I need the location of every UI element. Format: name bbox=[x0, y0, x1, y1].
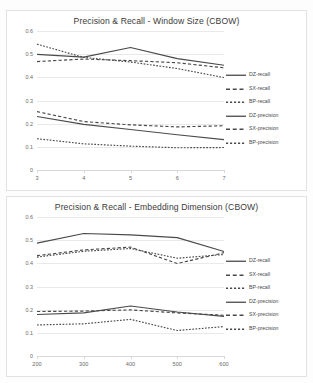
y-axis-tick-label: 0.6 bbox=[26, 214, 34, 220]
y-axis-tick-label: 0.3 bbox=[26, 98, 34, 104]
y-axis-tick-label: 0.1 bbox=[26, 144, 34, 150]
x-axis-tick bbox=[131, 356, 132, 359]
y-axis-tick-label: 0 bbox=[30, 353, 33, 359]
legend-line-swatch-icon bbox=[226, 113, 246, 119]
legend-item-sx-precision[interactable]: SX-precision bbox=[226, 312, 302, 318]
x-axis-tick-label: 6 bbox=[176, 175, 179, 181]
series-layer bbox=[37, 217, 224, 356]
chart-legend: DZ-recallSX-recallBP-recallDZ-precisionS… bbox=[226, 258, 302, 332]
legend-item-dz-precision[interactable]: DZ-precision bbox=[226, 113, 302, 119]
chart-page: Precision & Recall - Window Size (CBOW) … bbox=[0, 0, 313, 383]
x-axis-tick bbox=[177, 356, 178, 359]
legend-item-label: DZ-precision bbox=[249, 299, 278, 304]
legend-item-label: SX-recall bbox=[249, 86, 270, 91]
legend-item-label: BP-recall bbox=[249, 286, 270, 291]
legend-item-bp-recall[interactable]: BP-recall bbox=[226, 99, 302, 105]
legend-item-label: BP-precision bbox=[249, 326, 278, 331]
legend-item-label: DZ-precision bbox=[249, 113, 278, 118]
y-axis-tick-label: 0.5 bbox=[26, 51, 34, 57]
legend-line-swatch-icon bbox=[226, 72, 246, 78]
series-line-sx-recall bbox=[37, 59, 224, 68]
y-axis-tick-label: 0.5 bbox=[26, 237, 34, 243]
chart-legend: DZ-recallSX-recallBP-recallDZ-precisionS… bbox=[226, 72, 302, 146]
legend-line-swatch-icon bbox=[226, 326, 246, 332]
series-line-dz-precision bbox=[37, 116, 224, 139]
series-line-sx-precision bbox=[37, 112, 224, 127]
x-axis-tick bbox=[131, 170, 132, 173]
legend-item-bp-recall[interactable]: BP-recall bbox=[226, 285, 302, 291]
series-line-bp-precision bbox=[37, 139, 224, 148]
x-axis-tick bbox=[37, 356, 38, 359]
legend-item-dz-recall[interactable]: DZ-recall bbox=[226, 72, 302, 78]
legend-item-label: SX-recall bbox=[249, 272, 270, 277]
x-axis-tick-label: 400 bbox=[126, 361, 135, 367]
chart-title: Precision & Recall - Window Size (CBOW) bbox=[7, 16, 306, 26]
series-line-sx-precision bbox=[37, 310, 224, 315]
legend-item-bp-precision[interactable]: BP-precision bbox=[226, 140, 302, 146]
legend-line-swatch-icon bbox=[226, 140, 246, 146]
y-axis-tick-label: 0 bbox=[30, 167, 33, 173]
x-axis-tick-label: 200 bbox=[32, 361, 41, 367]
legend-line-swatch-icon bbox=[226, 258, 246, 264]
x-axis-tick-label: 500 bbox=[173, 361, 182, 367]
chart-title: Precision & Recall - Embedding Dimension… bbox=[7, 202, 306, 212]
series-line-bp-recall bbox=[37, 249, 224, 259]
legend-item-sx-precision[interactable]: SX-precision bbox=[226, 126, 302, 132]
legend-line-swatch-icon bbox=[226, 126, 246, 132]
y-axis-tick-label: 0.4 bbox=[26, 74, 34, 80]
x-axis-tick-label: 4 bbox=[82, 175, 85, 181]
legend-line-swatch-icon bbox=[226, 99, 246, 105]
x-axis-tick-label: 600 bbox=[219, 361, 228, 367]
chart-panel-window-size: Precision & Recall - Window Size (CBOW) … bbox=[6, 10, 307, 191]
x-axis-tick bbox=[224, 356, 225, 359]
series-line-sx-recall bbox=[37, 247, 224, 263]
legend-line-swatch-icon bbox=[226, 299, 246, 305]
legend-line-swatch-icon bbox=[226, 285, 246, 291]
legend-item-sx-recall[interactable]: SX-recall bbox=[226, 272, 302, 278]
legend-line-swatch-icon bbox=[226, 86, 246, 92]
plot-canvas: 00.10.20.30.40.50.634567 bbox=[37, 31, 224, 170]
x-axis-tick bbox=[224, 170, 225, 173]
legend-item-label: SX-precision bbox=[249, 313, 278, 318]
series-line-dz-recall bbox=[37, 47, 224, 65]
y-axis-tick-label: 0.2 bbox=[26, 121, 34, 127]
x-axis-tick-label: 300 bbox=[79, 361, 88, 367]
x-axis-tick bbox=[37, 170, 38, 173]
y-axis-tick-label: 0.3 bbox=[26, 284, 34, 290]
legend-line-swatch-icon bbox=[226, 272, 246, 278]
legend-item-dz-recall[interactable]: DZ-recall bbox=[226, 258, 302, 264]
plot-canvas: 00.10.20.30.40.50.6200300400500600 bbox=[37, 217, 224, 356]
series-layer bbox=[37, 31, 224, 170]
series-line-bp-precision bbox=[37, 319, 224, 330]
chart-panel-embedding-dimension: Precision & Recall - Embedding Dimension… bbox=[6, 196, 307, 377]
legend-item-sx-recall[interactable]: SX-recall bbox=[226, 86, 302, 92]
y-axis-tick-label: 0.2 bbox=[26, 307, 34, 313]
legend-item-bp-precision[interactable]: BP-precision bbox=[226, 326, 302, 332]
legend-item-label: DZ-recall bbox=[249, 259, 270, 264]
x-axis-tick bbox=[177, 170, 178, 173]
legend-item-dz-precision[interactable]: DZ-precision bbox=[226, 299, 302, 305]
legend-item-label: DZ-recall bbox=[249, 73, 270, 78]
x-axis-tick-label: 5 bbox=[129, 175, 132, 181]
x-axis-tick bbox=[84, 170, 85, 173]
y-axis-tick-label: 0.1 bbox=[26, 330, 34, 336]
legend-item-label: SX-precision bbox=[249, 127, 278, 132]
legend-item-label: BP-recall bbox=[249, 100, 270, 105]
y-axis-tick-label: 0.4 bbox=[26, 260, 34, 266]
plot-area-embedding-dimension: 00.10.20.30.40.50.6200300400500600 DZ-re… bbox=[7, 214, 306, 376]
plot-area-window-size: 00.10.20.30.40.50.634567 DZ-recallSX-rec… bbox=[7, 28, 306, 190]
legend-item-label: BP-precision bbox=[249, 140, 278, 145]
legend-line-swatch-icon bbox=[226, 312, 246, 318]
y-axis-tick-label: 0.6 bbox=[26, 28, 34, 34]
x-axis-tick-label: 7 bbox=[222, 175, 225, 181]
x-axis-tick bbox=[84, 356, 85, 359]
x-axis-tick-label: 3 bbox=[35, 175, 38, 181]
